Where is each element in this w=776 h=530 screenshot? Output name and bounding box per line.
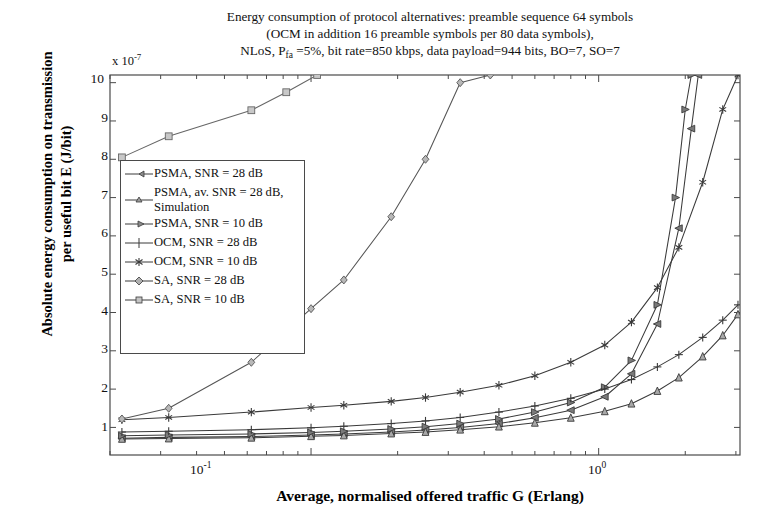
legend-label-3: OCM, SNR = 28 dB (154, 234, 257, 250)
figure-container: Energy consumption of protocol alternati… (0, 0, 776, 530)
legend-label-5: SA, SNR = 28 dB (154, 272, 245, 288)
legend-marker-left-triangle-icon (124, 165, 154, 183)
legend-marker-star-icon (124, 253, 154, 271)
legend-marker-up-triangle-icon (124, 184, 154, 214)
legend-label-4: OCM, SNR = 10 dB (154, 253, 257, 269)
legend-item-psma-av-28-sim[interactable]: PSMA, av. SNR = 28 dB, Simulation (121, 184, 304, 214)
legend-marker-right-triangle-icon (124, 215, 154, 233)
plot-canvas (0, 0, 776, 530)
legend-marker-plus-icon (124, 234, 154, 252)
legend-item-ocm-28[interactable]: OCM, SNR = 28 dB (121, 234, 304, 252)
legend-item-psma-10[interactable]: PSMA, SNR = 10 dB (121, 215, 304, 233)
legend-item-ocm-10[interactable]: OCM, SNR = 10 dB (121, 253, 304, 271)
legend-item-psma-28[interactable]: PSMA, SNR = 28 dB (121, 165, 304, 183)
legend-label-1: PSMA, av. SNR = 28 dB, Simulation (154, 184, 296, 214)
legend-marker-square-icon (124, 291, 154, 309)
legend[interactable]: PSMA, SNR = 28 dB PSMA, av. SNR = 28 dB,… (120, 160, 305, 354)
legend-label-2: PSMA, SNR = 10 dB (154, 215, 263, 231)
legend-label-0: PSMA, SNR = 28 dB (154, 165, 263, 181)
legend-label-6: SA, SNR = 10 dB (154, 291, 245, 307)
legend-item-sa-28[interactable]: SA, SNR = 28 dB (121, 272, 304, 290)
series-6 (119, 69, 328, 161)
legend-marker-diamond-icon (124, 272, 154, 290)
legend-item-sa-10[interactable]: SA, SNR = 10 dB (121, 291, 304, 309)
